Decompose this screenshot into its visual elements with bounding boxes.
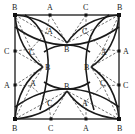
label-c-left: C bbox=[4, 47, 9, 56]
arcs bbox=[15, 15, 119, 119]
point-c-top bbox=[85, 14, 88, 17]
point-b-br bbox=[117, 117, 121, 121]
point-c-bottom bbox=[50, 118, 53, 121]
label-a-in-br: A bbox=[82, 99, 88, 108]
label-a-in-tr: A bbox=[101, 48, 107, 57]
label-c-in-tr: C bbox=[82, 27, 87, 36]
label-b-in-right: B bbox=[84, 63, 89, 72]
label-c-in-bl: C bbox=[47, 99, 52, 108]
point-a-left bbox=[14, 84, 17, 87]
outer-square bbox=[15, 15, 119, 119]
label-b-tr: B bbox=[117, 3, 122, 12]
arc-bl-2 bbox=[15, 67, 43, 119]
label-a-in-tl: A bbox=[47, 27, 53, 36]
point-b-bl bbox=[13, 117, 17, 121]
label-a-in-bl: A bbox=[30, 79, 36, 88]
dashed-lines bbox=[15, 15, 119, 119]
arc-br-2 bbox=[91, 67, 119, 119]
label-a-right: A bbox=[123, 47, 129, 56]
diagram-canvas: B B B B A C C A A C C A A C C A A C C A … bbox=[0, 0, 135, 134]
arc-tl-2 bbox=[15, 15, 43, 67]
point-c-right bbox=[118, 84, 121, 87]
point-c-left bbox=[14, 50, 17, 53]
point-a-top bbox=[49, 14, 52, 17]
label-c-right: C bbox=[123, 81, 128, 90]
label-c-top: C bbox=[83, 3, 88, 12]
label-b-br: B bbox=[117, 124, 122, 133]
label-a-top: A bbox=[47, 3, 53, 12]
label-b-in-left: B bbox=[45, 63, 50, 72]
point-b-tl bbox=[13, 13, 17, 17]
label-b-in-top: B bbox=[64, 45, 69, 54]
arc-tr-2 bbox=[91, 15, 119, 67]
label-a-left: A bbox=[4, 81, 10, 90]
point-markers bbox=[13, 13, 121, 121]
point-a-right bbox=[118, 50, 121, 53]
label-c-in-br: C bbox=[100, 79, 105, 88]
label-c-in-tl: C bbox=[29, 48, 34, 57]
point-labels: B B B B A C C A A C C A A C C A A C C A … bbox=[4, 3, 129, 133]
label-b-bl: B bbox=[12, 124, 17, 133]
geometry-diagram: B B B B A C C A A C C A A C C A A C C A … bbox=[0, 0, 135, 134]
label-a-bottom: A bbox=[83, 124, 89, 133]
label-b-in-bottom: B bbox=[64, 82, 69, 91]
point-b-tr bbox=[117, 13, 121, 17]
point-a-bottom bbox=[85, 118, 88, 121]
label-c-bottom: C bbox=[48, 124, 53, 133]
label-b-tl: B bbox=[12, 3, 17, 12]
